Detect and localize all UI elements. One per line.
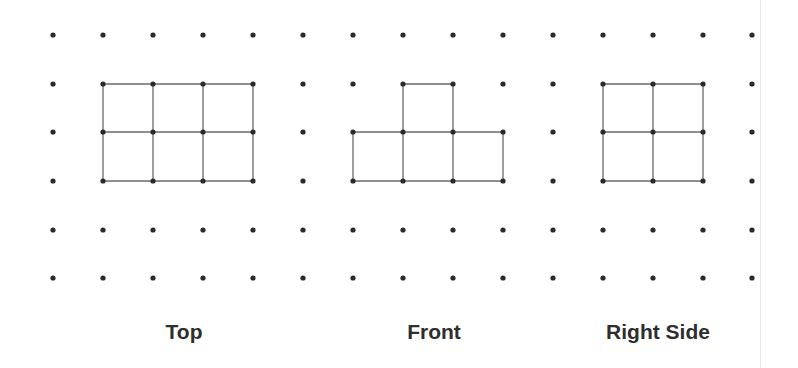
dot-grid-diagram — [0, 0, 798, 368]
grid-dot — [600, 275, 605, 280]
grid-dot — [200, 227, 205, 232]
grid-dot — [300, 129, 305, 134]
grid-dot — [350, 81, 355, 86]
grid-dot — [500, 32, 505, 37]
grid-dot — [150, 275, 155, 280]
top-view-shape — [103, 84, 253, 181]
grid-dot — [150, 32, 155, 37]
grid-dot — [200, 275, 205, 280]
grid-dot — [300, 275, 305, 280]
grid-dot — [100, 32, 105, 37]
grid-dot — [650, 227, 655, 232]
grid-dot — [500, 227, 505, 232]
grid-dot — [150, 129, 155, 134]
grid-dot — [500, 178, 505, 183]
grid-dot — [450, 81, 455, 86]
grid-dot — [749, 275, 754, 280]
grid-dot — [300, 81, 305, 86]
grid-dot — [650, 178, 655, 183]
grid-dot — [500, 275, 505, 280]
grid-dot — [600, 32, 605, 37]
grid-dot — [650, 129, 655, 134]
grid-dot — [200, 178, 205, 183]
grid-dot — [550, 227, 555, 232]
grid-dot — [450, 275, 455, 280]
grid-dot — [400, 129, 405, 134]
grid-dot — [600, 129, 605, 134]
grid-dot — [300, 32, 305, 37]
grid-dot — [250, 81, 255, 86]
grid-dot — [300, 227, 305, 232]
grid-dot — [700, 81, 705, 86]
grid-dot — [350, 129, 355, 134]
grid-dot — [250, 129, 255, 134]
grid-dot — [50, 129, 55, 134]
grid-dot — [749, 178, 754, 183]
grid-dot — [600, 178, 605, 183]
front-view-label: Front — [407, 320, 461, 344]
grid-dot — [400, 81, 405, 86]
grid-dot — [749, 81, 754, 86]
grid-dot — [650, 81, 655, 86]
grid-dot — [400, 227, 405, 232]
grid-dot — [600, 81, 605, 86]
grid-dot — [700, 227, 705, 232]
grid-dot — [600, 227, 605, 232]
grid-dot — [450, 178, 455, 183]
grid-dot — [650, 32, 655, 37]
grid-dot — [350, 227, 355, 232]
grid-dot — [700, 32, 705, 37]
grid-dot — [100, 178, 105, 183]
grid-dot — [200, 129, 205, 134]
grid-dot — [500, 129, 505, 134]
page-edge-divider — [760, 0, 761, 368]
grid-dot — [250, 32, 255, 37]
grid-dot — [550, 129, 555, 134]
grid-dot — [400, 32, 405, 37]
grid-dot — [250, 275, 255, 280]
grid-dot — [350, 32, 355, 37]
grid-dot — [150, 81, 155, 86]
grid-dot — [250, 227, 255, 232]
grid-dot — [50, 81, 55, 86]
grid-dot — [700, 275, 705, 280]
grid-dot — [100, 275, 105, 280]
grid-dot — [50, 227, 55, 232]
grid-dot — [400, 275, 405, 280]
grid-dot — [350, 178, 355, 183]
grid-dot — [100, 227, 105, 232]
grid-dot — [650, 275, 655, 280]
grid-dot — [50, 178, 55, 183]
right-side-view-label: Right Side — [606, 320, 710, 344]
grid-dot — [100, 129, 105, 134]
grid-dot — [200, 32, 205, 37]
grid-dot — [50, 32, 55, 37]
grid-dot — [749, 227, 754, 232]
grid-dot — [100, 81, 105, 86]
grid-dot — [450, 129, 455, 134]
grid-dot — [150, 178, 155, 183]
grid-dot — [200, 81, 205, 86]
grid-dot — [400, 178, 405, 183]
orthographic-views-figure: Top Front Right Side — [0, 0, 798, 368]
grid-dot — [350, 275, 355, 280]
grid-dot — [550, 178, 555, 183]
grid-dot — [550, 32, 555, 37]
grid-dot — [450, 32, 455, 37]
grid-dot — [550, 275, 555, 280]
top-view-label: Top — [166, 320, 203, 344]
grid-dot — [500, 81, 505, 86]
grid-dot — [550, 81, 555, 86]
front-view-shape — [353, 84, 503, 181]
grid-dot — [250, 178, 255, 183]
grid-dot — [50, 275, 55, 280]
grid-dot — [450, 227, 455, 232]
grid-dot — [150, 227, 155, 232]
grid-dot — [700, 129, 705, 134]
grid-dot — [300, 178, 305, 183]
grid-dot — [749, 32, 754, 37]
grid-dot — [749, 129, 754, 134]
grid-dot — [700, 178, 705, 183]
